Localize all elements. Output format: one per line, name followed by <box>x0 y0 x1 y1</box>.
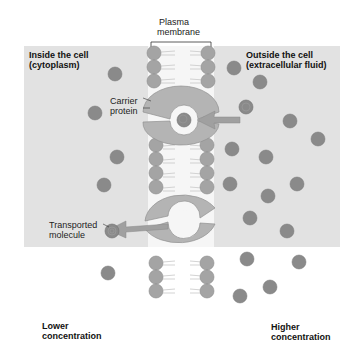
outside-molecule-entering <box>239 100 253 114</box>
carrier-label-line2: protein <box>110 106 138 116</box>
inside-cell-label: Inside the cell (cytoplasm) <box>29 50 89 70</box>
inside-label-line2: (cytoplasm) <box>29 60 89 70</box>
outside-label-line1: Outside the cell <box>246 50 327 60</box>
transported-molecule-label: Transported molecule <box>49 220 97 240</box>
plasma-label-line1: Plasma <box>157 17 200 27</box>
outside-cell-label: Outside the cell (extracellular fluid) <box>246 50 327 70</box>
carrier-protein-lower <box>145 195 215 243</box>
lower-concentration-label: Lower concentration <box>42 321 102 341</box>
lower-label-line2: concentration <box>42 331 102 341</box>
carrier-label-line1: Carrier <box>110 96 138 106</box>
higher-label-line2: concentration <box>271 332 331 342</box>
outside-label-line2: (extracellular fluid) <box>246 60 327 70</box>
phospholipid-heads <box>147 46 215 298</box>
transported-label-line1: Transported <box>49 220 97 230</box>
outside-molecules <box>223 61 325 303</box>
carrier-protein-label: Carrier protein <box>110 96 138 116</box>
plasma-label-line2: membrane <box>157 27 200 37</box>
transported-label-line2: molecule <box>49 230 97 240</box>
higher-concentration-label: Higher concentration <box>271 322 331 342</box>
membrane-bracket <box>151 42 211 47</box>
plasma-membrane-label: Plasma membrane <box>157 17 200 37</box>
higher-label-line1: Higher <box>271 322 331 332</box>
inside-label-line1: Inside the cell <box>29 50 89 60</box>
lower-label-line1: Lower <box>42 321 102 331</box>
